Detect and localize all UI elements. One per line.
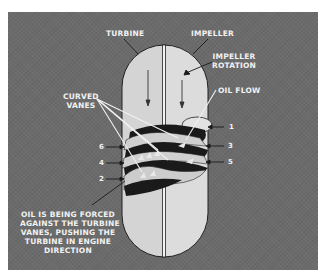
number-3: 3: [228, 142, 233, 150]
number-6: 6: [99, 143, 104, 151]
impeller-rotation-line1: IMPELLER: [212, 52, 256, 61]
turbine-label: TURBINE: [106, 29, 144, 38]
impeller-label: IMPELLER: [191, 29, 234, 38]
curved-vanes-label: CURVED VANES: [63, 92, 99, 110]
impeller-rotation-line2: ROTATION: [212, 61, 256, 70]
caption-line3: VANES, PUSHING THE: [20, 228, 116, 237]
number-2: 2: [99, 175, 104, 183]
caption: OIL IS BEING FORCED AGAINST THE TURBINE …: [20, 210, 116, 255]
caption-line4: TURBINE IN ENGINE: [20, 237, 116, 246]
number-1: 1: [229, 123, 234, 131]
oil-flow-label: OIL FLOW: [218, 86, 260, 95]
curved-vanes-line2: VANES: [63, 101, 99, 110]
caption-line2: AGAINST THE TURBINE: [20, 219, 116, 228]
number-4: 4: [99, 159, 104, 167]
number-5: 5: [228, 158, 233, 166]
curved-vanes-line1: CURVED: [63, 92, 99, 101]
caption-line5: DIRECTION: [20, 246, 116, 255]
caption-line1: OIL IS BEING FORCED: [20, 210, 116, 219]
impeller-rotation-label: IMPELLER ROTATION: [212, 52, 256, 70]
